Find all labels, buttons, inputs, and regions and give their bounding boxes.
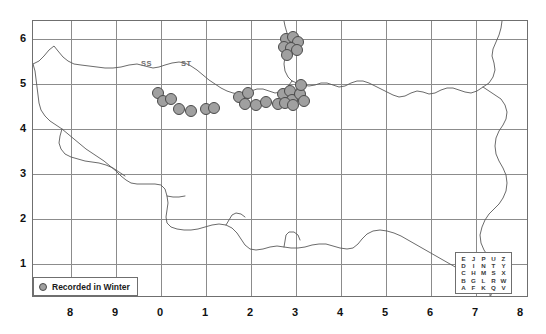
letter-key-cell: J [469,255,478,262]
letter-key-cell: L [479,277,488,284]
letter-key-cell: N [479,262,488,269]
letter-key-row: A F K Q V [459,284,508,291]
letter-key-cell: V [499,284,508,291]
record-dot [208,102,220,114]
letter-key-cell: S [489,269,498,276]
letter-key-cell: C [459,269,468,276]
record-dot [173,103,185,115]
distribution-map-figure: SS ST Recorded in [0,0,546,334]
y-tick-label: 3 [8,167,26,179]
letter-key-cell: B [459,277,468,284]
letter-key-row: C H M S X [459,269,508,276]
letter-key-cell: A [459,284,468,291]
letter-key-cell: H [469,269,478,276]
grid-square-label-ss: SS [141,59,152,68]
letter-key-cell: Y [499,262,508,269]
letter-key-cell: G [469,277,478,284]
x-tick-label: 1 [192,306,218,318]
letter-key-cell: I [469,262,478,269]
letter-key-cell: K [479,284,488,291]
record-dot [295,79,307,91]
letter-key-cell: P [479,255,488,262]
x-tick-label: 7 [462,306,488,318]
letter-key-row: B G L R W [459,277,508,284]
x-tick-label: 3 [282,306,308,318]
letter-key-row: E J P U Z [459,255,508,262]
x-tick-label: 5 [372,306,398,318]
letter-key-cell: R [489,277,498,284]
letter-key-cell: M [479,269,488,276]
y-tick-label: 4 [8,122,26,134]
x-tick-label: 8 [57,306,83,318]
x-tick-label: 8 [507,306,533,318]
letter-key-cell: Z [499,255,508,262]
x-tick-label: 2 [237,306,263,318]
record-dot [260,96,272,108]
letter-key-cell: F [469,284,478,291]
y-tick-label: 5 [8,77,26,89]
record-dot [298,95,310,107]
letter-key-cell: W [499,277,508,284]
coastline-outline [33,21,528,297]
winter-key-label: Recorded in Winter [52,282,130,292]
letter-key-cell: T [489,262,498,269]
y-tick-label: 1 [8,257,26,269]
letter-key-cell: E [459,255,468,262]
letter-key-cell: Q [489,284,498,291]
grid-letter-key: E J P U Z D I N T Y C H M S X B G L R W [455,252,512,294]
y-tick-label: 6 [8,32,26,44]
letter-key-cell: X [499,269,508,276]
x-tick-label: 9 [102,306,128,318]
grid-square-label-st: ST [181,59,191,68]
x-tick-label: 6 [417,306,443,318]
letter-key-cell: D [459,262,468,269]
winter-key-legend: Recorded in Winter [33,277,138,296]
y-tick-label: 2 [8,212,26,224]
letter-key-row: D I N T Y [459,262,508,269]
x-tick-label: 0 [147,306,173,318]
letter-key-cell: U [489,255,498,262]
map-plot-area: SS ST [32,20,528,297]
winter-key-marker-icon [39,283,47,291]
x-tick-label: 4 [327,306,353,318]
record-dot [281,49,293,61]
record-dot [185,105,197,117]
